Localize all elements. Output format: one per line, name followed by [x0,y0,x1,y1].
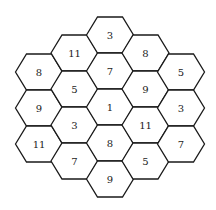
hex-number: 9 [36,103,42,114]
hex-cell: 3 [158,90,205,126]
hex-number: 7 [107,66,113,77]
hex-number: 7 [178,139,184,150]
hex-number: 8 [107,138,113,149]
hex-number: 3 [107,30,113,41]
hex-number: 1 [107,102,113,113]
hex-number: 5 [142,156,148,167]
hex-number: 11 [139,120,152,131]
hex-number: 3 [71,120,77,131]
hex-number: 11 [68,48,81,59]
hex-cell: 5 [158,54,205,90]
hex-number: 11 [33,139,46,150]
hex-number: 3 [178,103,184,114]
hex-number: 9 [142,84,148,95]
hex-number: 5 [71,84,77,95]
hex-cell: 7 [158,126,205,162]
hex-number: 8 [36,67,42,78]
hex-number: 9 [107,174,113,185]
hex-grid-diagram: 8911115373718989115537 [0,0,216,210]
hex-number: 7 [71,156,77,167]
hex-number: 5 [178,67,184,78]
hex-number: 8 [142,48,148,59]
